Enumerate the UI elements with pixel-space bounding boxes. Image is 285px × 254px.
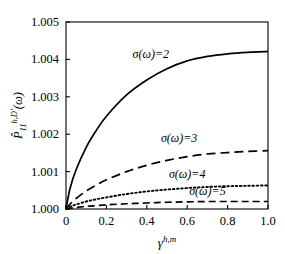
series-label-sigma-4: σ(ω)=4	[169, 167, 205, 181]
series-label-sigma-3: σ(ω)=3	[161, 131, 197, 145]
x-tick-label-4: 0.8	[220, 214, 236, 228]
y-tick-label-3: 1.003	[31, 90, 59, 104]
y-tick-label-0: 1.000	[31, 202, 59, 216]
x-tick-label-0: 0	[63, 214, 69, 228]
y-tick-label-2: 1.002	[31, 127, 59, 141]
y-tick-label-4: 1.004	[31, 52, 60, 66]
x-tick-label-5: 1.0	[260, 214, 276, 228]
x-tick-label-3: 0.6	[179, 214, 195, 228]
y-tick-label-5: 1.005	[31, 15, 59, 29]
series-label-sigma-5: σ(ω)=5	[189, 184, 225, 198]
chart-plot: 1.0001.0011.0021.0031.0041.00500.20.40.6…	[0, 0, 285, 254]
x-tick-label-1: 0.2	[99, 214, 115, 228]
series-label-sigma-2: σ(ω)=2	[133, 47, 169, 61]
x-tick-label-2: 0.4	[139, 214, 155, 228]
y-tick-label-1: 1.001	[31, 165, 59, 179]
figure-container: 1.0001.0011.0021.0031.0041.00500.20.40.6…	[0, 0, 285, 254]
